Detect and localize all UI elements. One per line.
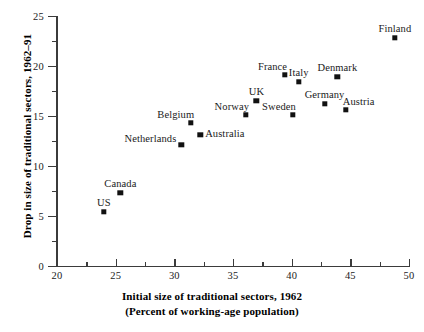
x-axis-title-line2: (Percent of working-age population): [0, 304, 424, 319]
data-point-label: Belgium: [157, 109, 194, 120]
data-point-marker: [254, 98, 259, 103]
data-point-marker: [197, 132, 202, 137]
y-tick-major: [48, 166, 57, 167]
data-point-marker: [335, 74, 340, 79]
data-point-label: US: [97, 197, 111, 208]
data-point-marker: [282, 72, 287, 77]
data-point-label: Italy: [289, 67, 309, 78]
data-point-label: Netherlands: [125, 133, 177, 144]
data-point-label: Norway: [215, 101, 249, 112]
data-point-marker: [392, 35, 397, 40]
data-point-marker: [322, 101, 327, 106]
plot-area: USCanadaNetherlandsBelgiumAustraliaNorwa…: [57, 16, 409, 266]
y-axis-ticks: [47, 16, 57, 266]
data-point-marker: [101, 209, 106, 214]
data-point-marker: [179, 142, 184, 147]
data-point-marker: [296, 79, 301, 84]
y-tick-major: [48, 116, 57, 117]
x-axis-title: Initial size of traditional sectors, 196…: [0, 289, 424, 319]
x-tick-label: 50: [404, 270, 415, 281]
data-point-label: Denmark: [318, 62, 358, 73]
data-point-label: Sweden: [262, 101, 296, 112]
x-tick-label: 25: [110, 270, 121, 281]
data-point-label: Austria: [343, 96, 375, 107]
y-tick-major: [48, 66, 57, 67]
y-tick-label: 15: [33, 111, 44, 122]
x-tick-label: 35: [228, 270, 239, 281]
y-tick-label: 0: [39, 261, 44, 272]
scatter-chart: 0510152025 20253035404550 USCanadaNether…: [0, 0, 424, 332]
x-tick-major: [409, 259, 410, 266]
y-tick-label: 25: [33, 11, 44, 22]
data-point-marker: [188, 120, 193, 125]
x-tick-label: 20: [52, 270, 63, 281]
data-point-marker: [118, 190, 123, 195]
y-tick-major: [48, 216, 57, 217]
x-axis-tick-labels: 20253035404550: [57, 270, 409, 284]
data-point-label: Australia: [205, 128, 244, 139]
x-tick-label: 30: [169, 270, 180, 281]
data-point-label: Canada: [104, 178, 136, 189]
y-tick-label: 5: [39, 211, 44, 222]
x-tick-label: 45: [345, 270, 356, 281]
data-point-marker: [243, 112, 248, 117]
data-point-label: Finland: [379, 23, 412, 34]
y-tick-major: [48, 266, 57, 267]
x-axis-title-line1: Initial size of traditional sectors, 196…: [122, 290, 302, 302]
data-point-label: UK: [249, 86, 264, 97]
x-tick-label: 40: [286, 270, 297, 281]
y-tick-major: [48, 16, 57, 17]
y-tick-label: 10: [33, 161, 44, 172]
data-point-marker: [343, 107, 348, 112]
data-point-marker: [290, 112, 295, 117]
y-axis-title: Drop in size of traditional sectors, 196…: [21, 11, 33, 261]
y-tick-label: 20: [33, 61, 44, 72]
data-point-label: Germany: [305, 89, 345, 100]
data-point-label: France: [258, 61, 287, 72]
